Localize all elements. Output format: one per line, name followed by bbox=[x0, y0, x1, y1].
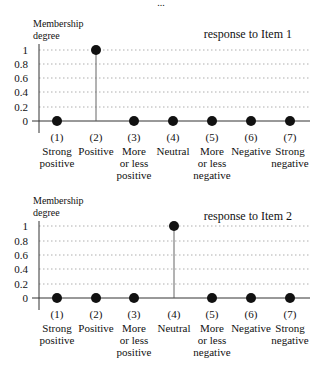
svg-text:positive: positive bbox=[117, 346, 152, 358]
svg-text:negative: negative bbox=[271, 334, 308, 346]
y-tick-1: 1 bbox=[23, 44, 29, 56]
svg-text:(1): (1) bbox=[51, 308, 64, 321]
svg-text:(2): (2) bbox=[90, 308, 103, 321]
y-tick-0.6: 0.6 bbox=[14, 72, 28, 84]
y-tick-labels: 1 0.8 0.6 0.4 0.2 0 bbox=[14, 220, 28, 304]
svg-text:(4): (4) bbox=[167, 131, 180, 144]
svg-text:Positive: Positive bbox=[78, 322, 114, 334]
x-category-labels: (1) Strong positive (2) Positive (3) Mor… bbox=[40, 131, 309, 181]
point-3 bbox=[129, 293, 139, 303]
svg-text:Negative: Negative bbox=[231, 145, 271, 157]
point-5 bbox=[207, 293, 217, 303]
svg-text:(5): (5) bbox=[206, 131, 219, 144]
svg-text:(5): (5) bbox=[206, 308, 219, 321]
point-4 bbox=[168, 116, 178, 126]
svg-text:negative: negative bbox=[193, 346, 230, 358]
y-tick-1: 1 bbox=[23, 220, 29, 232]
svg-text:or less: or less bbox=[120, 334, 148, 346]
svg-text:Neutral: Neutral bbox=[157, 145, 190, 157]
point-4 bbox=[169, 221, 179, 231]
svg-text:or less: or less bbox=[120, 157, 148, 169]
figure-canvas: ... Membership degree response to Item 1… bbox=[0, 0, 322, 373]
chart-item-1: Membership degree response to Item 1 1 0… bbox=[14, 18, 310, 181]
svg-text:(4): (4) bbox=[168, 308, 181, 321]
y-tick-0.2: 0.2 bbox=[14, 101, 28, 113]
svg-text:Strong: Strong bbox=[275, 322, 305, 334]
y-tick-labels: 1 0.8 0.6 0.4 0.2 0 bbox=[14, 44, 28, 127]
ellipsis-text: ... bbox=[157, 0, 165, 8]
svg-text:positive: positive bbox=[40, 157, 75, 169]
svg-text:More: More bbox=[122, 145, 146, 157]
svg-text:(1): (1) bbox=[51, 131, 64, 144]
svg-text:negative: negative bbox=[271, 157, 308, 169]
y-tick-0.6: 0.6 bbox=[14, 249, 28, 261]
svg-text:Strong: Strong bbox=[275, 145, 305, 157]
point-7 bbox=[285, 293, 295, 303]
y-axis-label-line2: degree bbox=[33, 30, 60, 41]
svg-text:negative: negative bbox=[193, 169, 230, 181]
svg-text:or less: or less bbox=[198, 157, 226, 169]
chart-title: response to Item 2 bbox=[204, 209, 292, 223]
svg-text:Negative: Negative bbox=[231, 322, 271, 334]
y-tick-0.8: 0.8 bbox=[14, 58, 28, 70]
grid-lines bbox=[39, 50, 310, 107]
svg-text:Strong: Strong bbox=[42, 322, 72, 334]
svg-text:Positive: Positive bbox=[78, 145, 114, 157]
y-tick-0: 0 bbox=[23, 292, 29, 304]
point-2 bbox=[91, 45, 101, 55]
data-points bbox=[52, 221, 295, 303]
y-tick-0: 0 bbox=[23, 115, 29, 127]
svg-text:(6): (6) bbox=[245, 308, 258, 321]
svg-text:(3): (3) bbox=[128, 131, 141, 144]
data-points bbox=[52, 45, 295, 126]
svg-text:or less: or less bbox=[198, 334, 226, 346]
point-5 bbox=[207, 116, 217, 126]
y-tick-0.2: 0.2 bbox=[14, 278, 28, 290]
svg-text:More: More bbox=[200, 145, 224, 157]
svg-text:(7): (7) bbox=[284, 308, 297, 321]
y-tick-0.8: 0.8 bbox=[14, 235, 28, 247]
svg-text:Neutral: Neutral bbox=[158, 322, 191, 334]
svg-text:(2): (2) bbox=[90, 131, 103, 144]
point-2 bbox=[91, 293, 101, 303]
svg-text:(6): (6) bbox=[245, 131, 258, 144]
svg-text:(3): (3) bbox=[128, 308, 141, 321]
y-axis-label-line1: Membership bbox=[33, 18, 84, 29]
y-tick-0.4: 0.4 bbox=[14, 86, 28, 98]
y-axis-label-line1: Membership bbox=[33, 195, 84, 206]
svg-text:(7): (7) bbox=[284, 131, 297, 144]
point-7 bbox=[285, 116, 295, 126]
grid-lines bbox=[39, 226, 310, 284]
svg-text:More: More bbox=[200, 322, 224, 334]
point-6 bbox=[246, 116, 256, 126]
point-1 bbox=[52, 116, 62, 126]
y-axis-label-line2: degree bbox=[33, 207, 60, 218]
svg-text:Strong: Strong bbox=[42, 145, 72, 157]
chart-title: response to Item 1 bbox=[204, 27, 292, 41]
point-3 bbox=[129, 116, 139, 126]
x-category-labels: (1) Strong positive (2) Positive (3) Mor… bbox=[40, 308, 309, 358]
svg-text:positive: positive bbox=[40, 334, 75, 346]
svg-text:More: More bbox=[122, 322, 146, 334]
point-6 bbox=[246, 293, 256, 303]
y-tick-0.4: 0.4 bbox=[14, 263, 28, 275]
svg-text:positive: positive bbox=[117, 169, 152, 181]
point-1 bbox=[52, 293, 62, 303]
chart-item-2: Membership degree response to Item 2 1 0… bbox=[14, 195, 310, 358]
